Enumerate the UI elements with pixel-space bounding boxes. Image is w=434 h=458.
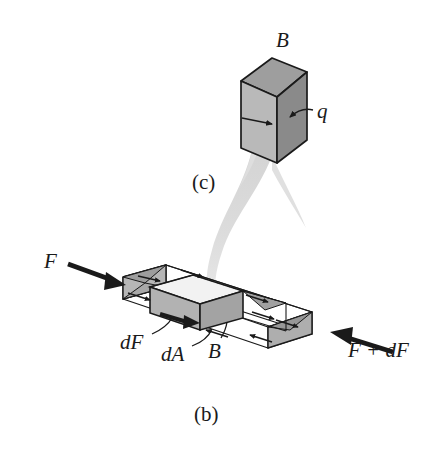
panel-caption-b: (b) <box>194 404 219 425</box>
panel-caption-c: (c) <box>192 172 215 193</box>
slab-label-B: B <box>208 341 221 362</box>
dF-leader <box>152 318 172 334</box>
panel-b-slab <box>68 264 393 352</box>
slab-right-section <box>243 291 312 348</box>
slab-label-force-left: F <box>44 251 57 272</box>
cube-label-B: B <box>276 30 289 51</box>
slab-label-dA: dA <box>161 344 184 365</box>
differential-element-B <box>150 275 243 330</box>
panel-c-cube <box>241 58 313 163</box>
physics-figure: B q (c) F dF dA B F + dF (b) <box>0 0 434 458</box>
slab-label-dF: dF <box>120 332 143 353</box>
force-F-arrow <box>68 264 126 290</box>
figure-canvas <box>0 0 434 458</box>
slab-label-force-right: F + dF <box>348 340 409 361</box>
magnification-funnel <box>207 150 306 302</box>
cube-label-q: q <box>317 101 328 122</box>
